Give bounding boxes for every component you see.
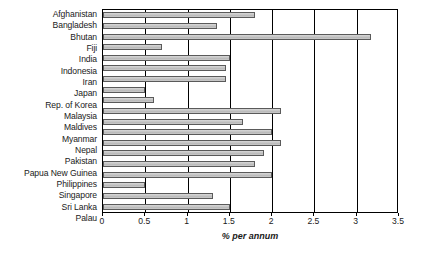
category-label: Indonesia [0, 66, 100, 77]
bar-row [103, 63, 397, 74]
bar [103, 129, 272, 135]
bar-row [103, 191, 397, 202]
category-label: Bhutan [0, 32, 100, 43]
bar [103, 76, 226, 82]
bar-row [103, 159, 397, 170]
bar-row [103, 106, 397, 117]
bar-row [103, 138, 397, 149]
bar-row [103, 84, 397, 95]
bar [103, 182, 145, 188]
category-label: Singapore [0, 190, 100, 201]
bar-series [103, 10, 397, 212]
bar [103, 12, 255, 18]
tick-label: 1.5 [223, 216, 235, 226]
bar [103, 204, 230, 210]
bar-row [103, 42, 397, 53]
category-label: Papua New Guinea [0, 168, 100, 179]
bar [103, 97, 154, 103]
category-label: Palau [0, 213, 100, 224]
category-label: Japan [0, 88, 100, 99]
bar [103, 23, 217, 29]
tick-label: 3 [353, 216, 358, 226]
category-axis-labels: AfghanistanBangladeshBhutanFijiIndiaIndo… [0, 9, 100, 213]
category-label: Bangladesh [0, 20, 100, 31]
bar [103, 150, 264, 156]
bar-row [103, 116, 397, 127]
bar-row [103, 53, 397, 64]
bar [103, 44, 162, 50]
bar [103, 34, 371, 40]
category-label: Afghanistan [0, 9, 100, 20]
tick-label: 0.5 [138, 216, 150, 226]
bar [103, 87, 145, 93]
bar-row [103, 127, 397, 138]
category-label: Philippines [0, 179, 100, 190]
category-label: Pakistan [0, 156, 100, 167]
bar [103, 55, 230, 61]
bar-row [103, 21, 397, 32]
category-label: Maldives [0, 122, 100, 133]
bar-chart: AfghanistanBangladeshBhutanFijiIndiaIndo… [0, 0, 439, 268]
bar [103, 161, 255, 167]
bar-row [103, 31, 397, 42]
category-label: India [0, 54, 100, 65]
category-label: Nepal [0, 145, 100, 156]
bar [103, 119, 243, 125]
x-axis-title: % per annum [102, 231, 398, 241]
category-label: Rep. of Korea [0, 100, 100, 111]
bar-row [103, 95, 397, 106]
category-label: Sri Lanka [0, 202, 100, 213]
bar-row [103, 169, 397, 180]
bar [103, 65, 226, 71]
tick-label: 2 [269, 216, 274, 226]
category-label: Iran [0, 77, 100, 88]
bar [103, 108, 281, 114]
bar-row [103, 180, 397, 191]
bar [103, 193, 213, 199]
plot-area [102, 9, 398, 213]
tick-label: 2.5 [307, 216, 319, 226]
tick-label: 1 [184, 216, 189, 226]
tick-label: 0 [100, 216, 105, 226]
category-label: Myanmar [0, 134, 100, 145]
tick-label: 3.5 [392, 216, 404, 226]
value-axis: 00.511.522.533.5 [102, 213, 398, 229]
bar-row [103, 10, 397, 21]
category-label: Fiji [0, 43, 100, 54]
bar-row [103, 74, 397, 85]
category-label: Malaysia [0, 111, 100, 122]
bar-row [103, 148, 397, 159]
bar [103, 172, 272, 178]
bar [103, 140, 281, 146]
bar-row [103, 201, 397, 212]
